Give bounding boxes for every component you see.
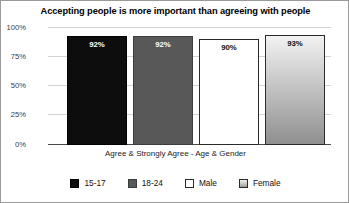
bar-female[interactable]: 93% bbox=[265, 35, 325, 145]
legend-item-male[interactable]: Male bbox=[185, 178, 217, 188]
legend-swatch-icon-15-17 bbox=[70, 179, 79, 188]
gridline-100 bbox=[48, 27, 331, 28]
chart-legend: 15-17 18-24 Male Female bbox=[1, 178, 349, 188]
chart-title: Accepting people is more important than … bbox=[1, 6, 349, 16]
legend-label-18-24: 18-24 bbox=[142, 178, 163, 188]
legend-label-15-17: 15-17 bbox=[84, 178, 105, 188]
x-axis-title: Agree & Strongly Agree - Age & Gender bbox=[1, 149, 349, 158]
ytick-label-75: 75% bbox=[0, 52, 26, 61]
legend-item-female[interactable]: Female bbox=[239, 178, 281, 188]
ytick-label-100: 100% bbox=[0, 23, 26, 32]
bar-15-17[interactable]: 92% bbox=[67, 36, 127, 145]
legend-label-male: Male bbox=[199, 178, 217, 188]
ytick-label-25: 25% bbox=[0, 110, 26, 119]
chart-container: Accepting people is more important than … bbox=[0, 0, 349, 203]
bar-value-label-female: 93% bbox=[266, 39, 324, 48]
legend-swatch-icon-18-24 bbox=[128, 179, 137, 188]
bar-value-label-15-17: 92% bbox=[68, 40, 126, 49]
legend-item-18-24[interactable]: 18-24 bbox=[128, 178, 163, 188]
bar-male[interactable]: 90% bbox=[199, 39, 259, 145]
legend-item-15-17[interactable]: 15-17 bbox=[70, 178, 105, 188]
bar-18-24[interactable]: 92% bbox=[133, 36, 193, 145]
legend-swatch-icon-male bbox=[185, 179, 194, 188]
bar-value-label-18-24: 92% bbox=[134, 40, 192, 49]
ytick-label-0: 0% bbox=[0, 140, 26, 149]
ytick-label-50: 50% bbox=[0, 81, 26, 90]
legend-label-female: Female bbox=[253, 178, 281, 188]
plot-area: 100% 75% 50% 25% 0% 92% 92% 90% 93% bbox=[48, 27, 331, 145]
bar-value-label-male: 90% bbox=[200, 43, 258, 52]
legend-swatch-icon-female bbox=[239, 179, 248, 188]
